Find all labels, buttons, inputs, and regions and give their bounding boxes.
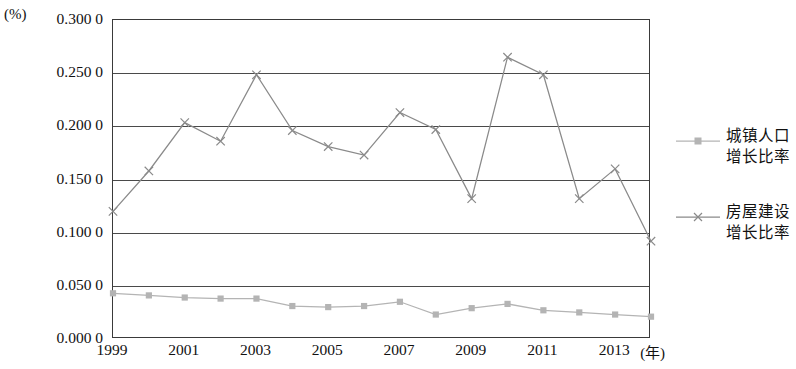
data-point-marker (396, 108, 404, 116)
data-point-marker (504, 301, 510, 307)
y-axis-tick-label: 0.050 0 (57, 277, 104, 293)
x-axis-tick-label: 2005 (303, 341, 351, 359)
legend-label: 城镇人口增长比率 (726, 126, 796, 168)
data-point-marker (469, 305, 475, 311)
data-point-marker (182, 294, 188, 300)
data-point-marker (432, 125, 440, 133)
legend-label-line: 增长比率 (726, 147, 796, 168)
data-point-marker (575, 194, 583, 202)
data-point-marker (253, 295, 259, 301)
data-point-marker (612, 311, 618, 317)
data-point-marker (361, 303, 367, 309)
plot-area (112, 19, 650, 338)
y-axis-tick-label: 0.200 0 (57, 117, 104, 133)
data-point-marker (145, 167, 153, 175)
y-axis-tick-label: 0.150 0 (57, 171, 104, 187)
series-layer (113, 20, 651, 339)
x-axis-tick-label: 2001 (160, 341, 208, 359)
data-point-marker (288, 126, 296, 134)
data-point-marker (611, 165, 619, 173)
data-point-marker (325, 304, 331, 310)
data-point-marker (647, 237, 655, 245)
y-axis-tick-labels: 0.300 00.250 00.200 00.150 00.100 00.050… (0, 0, 103, 369)
data-point-marker (648, 314, 654, 320)
y-axis-tick-label: 0.100 0 (57, 224, 104, 240)
series-2 (109, 53, 655, 245)
data-point-marker (576, 309, 582, 315)
x-axis-tick-label: 2009 (447, 341, 495, 359)
data-point-marker (503, 53, 511, 61)
data-point-marker (397, 299, 403, 305)
data-point-marker (289, 303, 295, 309)
line-chart: (%) 0.300 00.250 00.200 00.150 00.100 00… (0, 0, 796, 369)
x-axis-tick-label: 2013 (590, 341, 638, 359)
legend-label-line: 增长比率 (726, 223, 796, 244)
x-axis-tick-label: 2003 (231, 341, 279, 359)
series-1 (110, 290, 654, 320)
legend-label: 房屋建设增长比率 (726, 202, 796, 244)
legend-item-2[interactable]: 房屋建设增长比率 (676, 204, 794, 250)
data-point-marker (360, 151, 368, 159)
y-axis-tick-label: 0.300 0 (57, 11, 104, 27)
legend-label-line: 房屋建设 (726, 202, 796, 223)
data-point-marker (110, 290, 116, 296)
y-axis-tick-label: 0.250 0 (57, 64, 104, 80)
data-point-marker (252, 71, 260, 79)
series-line (113, 293, 651, 316)
x-axis-unit-label: (年) (640, 341, 665, 362)
legend-square-marker-icon (676, 134, 720, 148)
data-point-marker (324, 142, 332, 150)
x-axis-tick-label: 2007 (375, 341, 423, 359)
data-point-marker (467, 194, 475, 202)
data-point-marker (146, 292, 152, 298)
data-point-marker (218, 295, 224, 301)
data-point-marker (181, 118, 189, 126)
x-axis-tick-label: 1999 (88, 341, 136, 359)
data-point-marker (540, 307, 546, 313)
data-point-marker (433, 311, 439, 317)
series-line (113, 57, 651, 241)
legend: 城镇人口增长比率房屋建设增长比率 (676, 128, 794, 280)
legend-cross-marker-icon (676, 210, 720, 224)
legend-item-1[interactable]: 城镇人口增长比率 (676, 128, 794, 174)
data-point-marker (109, 207, 117, 215)
legend-label-line: 城镇人口 (726, 126, 796, 147)
x-axis-tick-labels: 19992001200320052007200920112013 (0, 341, 796, 369)
data-point-marker (216, 137, 224, 145)
data-point-marker (539, 71, 547, 79)
x-axis-tick-label: 2011 (518, 341, 566, 359)
